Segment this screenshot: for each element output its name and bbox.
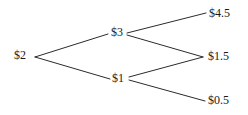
edge-root-to-up xyxy=(35,34,108,57)
node-label-down-down: $0.5 xyxy=(207,94,230,107)
edge-up-to-up-down xyxy=(127,35,203,57)
node-label-up-up: $4.5 xyxy=(208,7,231,20)
node-label-root: $2 xyxy=(13,49,27,62)
node-label-up: $3 xyxy=(110,26,124,39)
node-label-up-down: $1.5 xyxy=(207,50,230,63)
node-label-down: $1 xyxy=(111,72,125,85)
binomial-tree-diagram: $2 $3 $1 $4.5 $1.5 $0.5 xyxy=(0,0,248,115)
edge-down-to-down-down xyxy=(129,80,205,101)
edge-up-to-up-up xyxy=(127,13,206,33)
edge-down-to-up-down xyxy=(129,57,203,77)
edge-root-to-down xyxy=(35,57,110,79)
